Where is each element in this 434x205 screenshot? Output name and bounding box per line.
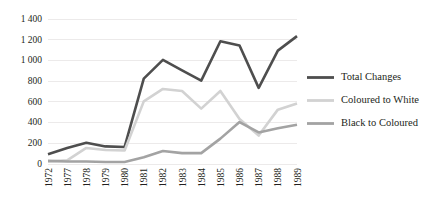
x-axis-tick-label: 1978 [82,168,92,187]
y-axis-tick-label: 200 [28,138,43,148]
legend-label: Coloured to White [341,94,419,105]
line-chart: 02004006008001 0001 2001 400 19721977197… [0,0,434,205]
x-axis-tick-label: 1987 [254,168,264,187]
y-axis-tick-label: 1 000 [21,55,43,65]
chart-canvas: 02004006008001 0001 2001 400 19721977197… [0,0,434,205]
x-axis-tick-label: 1986 [235,168,245,187]
x-axis-tick-label: 1988 [273,168,283,187]
y-axis-tick-label: 400 [28,117,43,127]
x-axis-tick-label: 1977 [63,168,73,187]
legend-label: Total Changes [341,71,401,82]
series-line-total-changes [48,36,297,154]
chart-legend: Total ChangesColoured to WhiteBlack to C… [307,71,419,128]
x-axis-tick-label: 1982 [158,168,168,187]
x-axis-tick-labels: 1972197719781979198019811982198319841985… [44,168,303,187]
y-axis-tick-label: 0 [37,159,42,169]
x-axis-tick-label: 1980 [120,168,130,187]
x-axis-tick-label: 1983 [178,168,188,187]
x-axis-tick-label: 1984 [197,168,207,187]
y-axis-tick-label: 800 [28,76,43,86]
x-axis-tick-label: 1981 [139,168,149,187]
y-axis-tick-label: 1 200 [21,35,43,45]
x-axis-tick-label: 1989 [293,168,303,187]
y-axis-tick-label: 1 400 [21,14,43,24]
x-axis-tick-label: 1972 [44,168,54,187]
series-line-coloured-to-white [48,89,297,161]
legend-label: Black to Coloured [341,117,419,128]
y-axis-tick-label: 600 [28,97,43,107]
x-axis-tick-label: 1985 [216,168,226,187]
x-axis-tick-label: 1979 [101,168,111,187]
y-axis-tick-labels: 02004006008001 0001 2001 400 [21,14,43,169]
